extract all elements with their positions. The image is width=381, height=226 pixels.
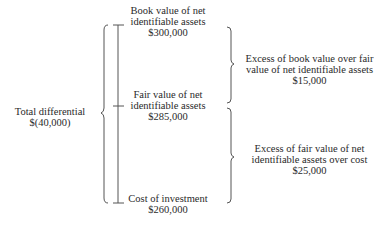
total-differential-amount: $(40,000) bbox=[0, 117, 100, 128]
book-value-label: Book value of net identifiable assets $3… bbox=[120, 5, 216, 38]
book-value-amount: $300,000 bbox=[120, 27, 216, 38]
excess-fair-over-cost-line2: identifiable assets over cost bbox=[238, 154, 381, 165]
cost-title: Cost of investment bbox=[120, 193, 216, 204]
cost-label: Cost of investment $260,000 bbox=[120, 193, 216, 215]
book-value-title-line1: Book value of net bbox=[120, 5, 216, 16]
cost-amount: $260,000 bbox=[120, 204, 216, 215]
excess-book-over-fair-line2: value of net identifiable assets bbox=[238, 64, 381, 75]
book-value-title-line2: identifiable assets bbox=[120, 16, 216, 27]
excess-fair-over-cost-line1: Excess of fair value of net bbox=[238, 143, 381, 154]
left-brace bbox=[101, 25, 108, 203]
right-brace-book-fair bbox=[227, 27, 234, 103]
fair-value-amount: $285,000 bbox=[120, 111, 216, 122]
total-differential-title: Total differential bbox=[0, 106, 100, 117]
excess-fair-over-cost-amount: $25,000 bbox=[238, 165, 381, 176]
total-differential-label: Total differential $(40,000) bbox=[0, 106, 100, 128]
fair-value-title-line2: identifiable assets bbox=[120, 100, 216, 111]
excess-book-over-fair-line1: Excess of book value over fair bbox=[238, 53, 381, 64]
fair-value-title-line1: Fair value of net bbox=[120, 89, 216, 100]
right-brace-fair-cost bbox=[227, 108, 234, 203]
excess-book-over-fair-amount: $15,000 bbox=[238, 75, 381, 86]
excess-fair-over-cost-label: Excess of fair value of net identifiable… bbox=[238, 143, 381, 176]
fair-value-label: Fair value of net identifiable assets $2… bbox=[120, 89, 216, 122]
excess-book-over-fair-label: Excess of book value over fair value of … bbox=[238, 53, 381, 86]
